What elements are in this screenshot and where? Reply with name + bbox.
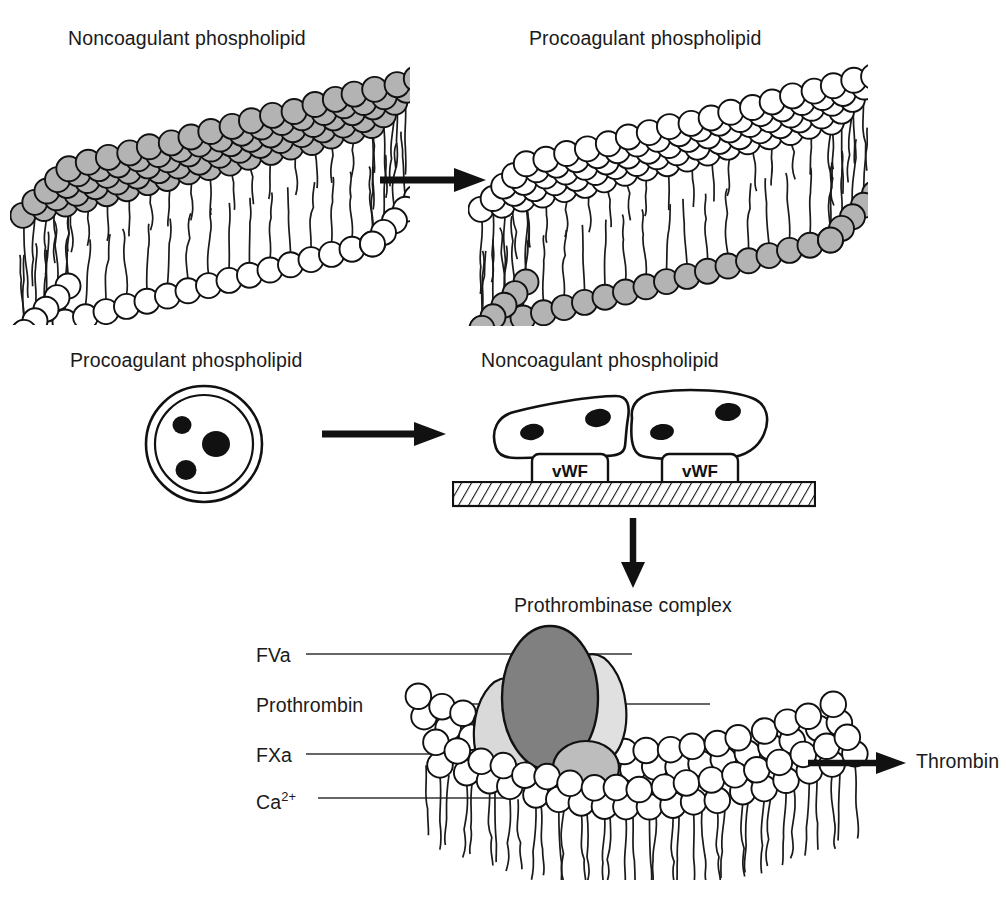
resting-platelet <box>132 382 292 512</box>
subendothelial-surface <box>452 481 816 509</box>
panel-bottom-title: Prothrombinase complex <box>514 594 732 617</box>
spread-platelet-right <box>631 390 767 459</box>
procoagulant-bilayer <box>468 56 868 326</box>
panel-mid-left-title: Procoagulant phospholipid <box>70 349 302 372</box>
panel-mid-right-title: Noncoagulant phospholipid <box>481 349 719 372</box>
platelet-granule <box>176 460 197 480</box>
prothrombinase-svg <box>400 620 870 880</box>
prothrombinase-assembly <box>400 620 870 880</box>
arrow-mid <box>320 417 450 451</box>
arrow-thrombin <box>806 748 910 778</box>
spread-platelet-left <box>494 396 629 458</box>
platelet-granule <box>173 416 192 434</box>
arrow-down <box>615 516 651 590</box>
panel-top-right-title: Procoagulant phospholipid <box>529 27 761 50</box>
panel-top-left-title: Noncoagulant phospholipid <box>68 27 306 50</box>
procoagulant-bilayer-svg <box>468 56 868 326</box>
label-thrombin: Thrombin <box>916 750 999 773</box>
figure-canvas: Noncoagulant phospholipid Procoagulant p… <box>0 0 1006 904</box>
noncoagulant-bilayer-svg <box>10 60 410 325</box>
noncoagulant-bilayer <box>10 60 410 325</box>
platelet-granule <box>202 431 230 457</box>
